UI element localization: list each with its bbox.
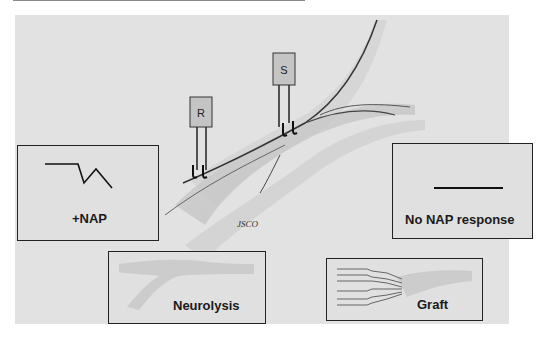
nap-waveform-icon: [18, 146, 160, 242]
svg-text:S: S: [280, 64, 287, 76]
no-nap-box: No NAP response: [392, 143, 533, 239]
neurolysis-box: Neurolysis: [108, 251, 266, 324]
recording-electrode: R: [190, 97, 212, 178]
positive-nap-label: +NAP: [72, 211, 107, 226]
nerve-graft-icon: [327, 259, 484, 322]
svg-text:R: R: [197, 107, 205, 119]
stimulating-electrode: S: [273, 53, 297, 136]
neurolysis-label: Neurolysis: [173, 298, 239, 313]
artist-signature: JSCO: [237, 219, 258, 229]
top-border-line: [13, 0, 305, 1]
figure-panel: R S JSCO +NAP No NAP response Neurolysis: [15, 15, 509, 324]
nerve-branch-icon: [109, 252, 267, 325]
no-nap-label: No NAP response: [405, 212, 515, 227]
positive-nap-box: +NAP: [17, 145, 159, 241]
graft-label: Graft: [417, 297, 448, 312]
graft-box: Graft: [326, 258, 483, 321]
